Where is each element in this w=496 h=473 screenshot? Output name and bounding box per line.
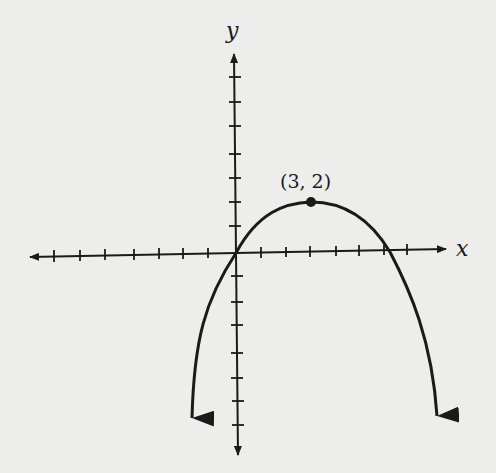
vertex-point — [306, 197, 316, 207]
y-axis-label: y — [225, 18, 239, 43]
vertex-label: (3, 2) — [280, 170, 331, 192]
x-axis-label: x — [456, 236, 469, 261]
parabola-curve — [192, 202, 437, 418]
graph-canvas: (3, 2) y x — [0, 0, 496, 473]
coordinate-plane: (3, 2) y x — [0, 0, 496, 473]
